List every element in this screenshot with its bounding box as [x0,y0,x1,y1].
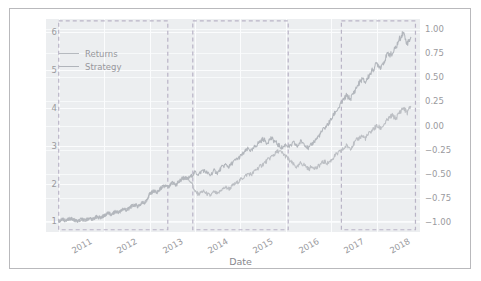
y-tick-right: 0.25 [425,96,465,106]
chart-legend: ReturnsStrategy [59,47,137,73]
y-tick-left: 3 [27,141,57,151]
legend-swatch-returns [59,53,79,55]
y-tick-left: 5 [27,65,57,75]
y-tick-right: −0.25 [425,145,465,155]
x-axis-label: Date [0,256,481,267]
y-tick-right: −0.50 [425,169,465,179]
y-tick-right: 0.50 [425,72,465,82]
y-tick-right: −0.75 [425,193,465,203]
legend-label: Strategy [85,62,121,72]
legend-item-strategy: Strategy [59,60,137,73]
y-tick-left: 2 [27,179,57,189]
legend-swatch-strategy [59,66,79,68]
y-tick-left: 4 [27,103,57,113]
legend-item-returns: Returns [59,47,137,60]
y-tick-left: 1 [27,216,57,226]
series-line-returns [59,106,411,222]
y-tick-right: −1.00 [425,217,465,227]
y-tick-right: 1.00 [425,24,465,34]
y-tick-right: 0.75 [425,48,465,58]
chart-figure: 123456 1.000.750.500.250.00−0.25−0.50−0.… [0,0,481,281]
legend-label: Returns [85,49,118,59]
y-tick-right: 0.00 [425,121,465,131]
y-tick-left: 6 [27,27,57,37]
